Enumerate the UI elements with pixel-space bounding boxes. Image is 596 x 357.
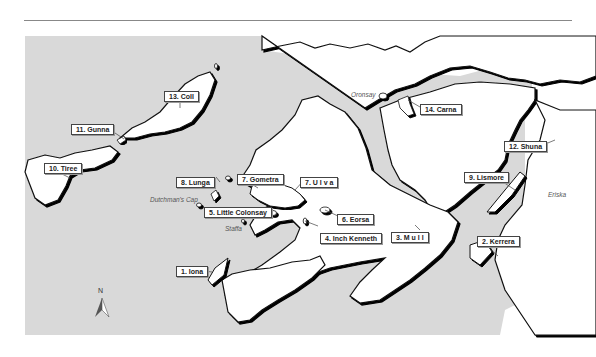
label-gometra[interactable]: 7. Gometra [237,174,284,185]
label-lismore[interactable]: 9. Lismore [464,172,509,183]
label-inch-kenneth[interactable]: 4. Inch Kenneth [320,233,382,244]
label-kerrera[interactable]: 2. Kerrera [477,236,520,247]
label-coll[interactable]: 13. Coll [164,91,199,102]
label-eorsa[interactable]: 6. Eorsa [337,214,374,225]
label-shuna[interactable]: 12. Shuna [504,141,547,152]
label-little-colonsay[interactable]: 5. Little Colonsay [204,207,272,218]
label-lunga[interactable]: 8. Lunga [176,177,215,188]
label-iona[interactable]: 1. Iona [176,266,208,277]
label-staffa: Staffa [225,225,242,232]
label-ulva[interactable]: 7. U l v a [300,177,338,188]
label-eriska: Eriska [548,191,566,198]
label-tiree[interactable]: 10. Tiree [44,163,82,174]
label-oronsay: Oronsay [351,91,376,98]
label-gunna[interactable]: 11. Gunna [71,124,114,135]
label-dutchmans-cap: Dutchman's Cap [150,196,198,203]
north-label: N [98,287,103,294]
label-mull[interactable]: 3. M u l l [391,232,429,243]
label-carna[interactable]: 14. Carna [420,104,462,115]
